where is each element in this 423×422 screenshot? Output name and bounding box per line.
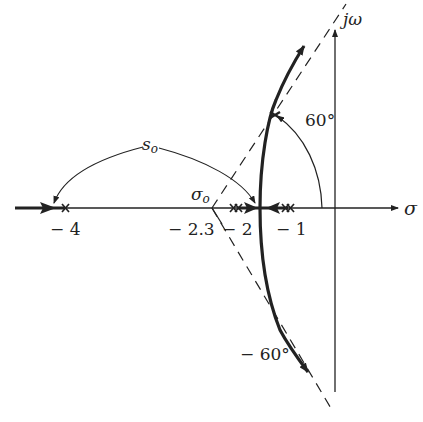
- angle-label-neg60: − 60°: [240, 344, 290, 364]
- so-pointer-left: [54, 147, 143, 203]
- real-axis-label: σ: [404, 197, 418, 219]
- tick-label-neg2: − 2: [222, 219, 252, 239]
- locus-branch-upper: [260, 46, 304, 208]
- tick-label-neg4: − 4: [50, 219, 80, 239]
- asymptote-upper: [212, 4, 346, 208]
- imaginary-axis-label: jω: [339, 9, 362, 29]
- so-label: so: [142, 134, 158, 156]
- root-locus-diagram: σ jω − 4 − 2.3 − 2 − 1 σo so 60° − 60°: [0, 0, 423, 422]
- angle-label-60: 60°: [305, 110, 335, 130]
- root-locus-svg: σ jω − 4 − 2.3 − 2 − 1 σo so 60° − 60°: [0, 0, 423, 422]
- centroid-symbol-label: σo: [191, 184, 210, 206]
- tick-label-centroid: − 2.3: [168, 219, 215, 239]
- tick-label-neg1: − 1: [276, 219, 306, 239]
